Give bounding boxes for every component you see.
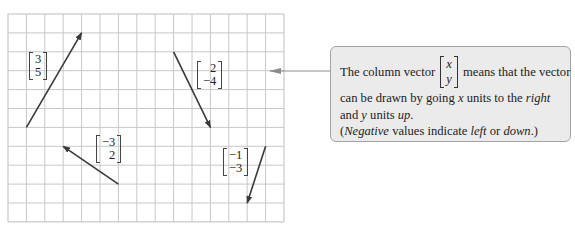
callout-var-y: y [361,108,367,122]
callout-emphasis-right: right [526,91,551,105]
vector-3-5-arrow [26,33,81,128]
vector-label-neg3-2: −3 2 [96,135,121,163]
vector-y-value: −4 [203,75,216,88]
right-bracket [244,148,248,176]
vector-arrows [26,33,265,203]
callout-text: units to the [467,91,523,105]
callout-line-1: The column vector x y means that the vec… [340,56,570,89]
vector-y-value: 5 [35,66,41,79]
callout-text: The column vector [340,65,435,79]
callout-line-4: (Negative values indicate left or down.) [340,123,538,140]
vector-y-value: −3 [229,162,242,175]
vector-label-3-5: 3 5 [29,52,47,80]
callout-line-3: and y units up. [340,107,414,124]
callout-emphasis-negative: Negative [344,124,389,138]
right-bracket [218,61,222,89]
callout-text: units [370,108,395,122]
callout-emphasis-left: left [470,124,486,138]
callout-text: . [410,108,413,122]
vector-neg1-neg3-arrow [247,146,265,203]
vector-label-neg1-neg3: −1 −3 [223,148,248,176]
right-bracket [454,56,458,88]
callout-text: .) [531,124,538,138]
grid-lines [8,14,284,222]
callout-text: and [340,108,358,122]
callout-text: can be drawn by going [340,91,455,105]
right-bracket [117,135,121,163]
callout-var-x: x [458,91,464,105]
explanation-callout: The column vector x y means that the vec… [330,46,571,142]
callout-line-2: can be drawn by going x units to the rig… [340,90,550,107]
callout-text: or [490,124,501,138]
callout-emphasis-down: down [503,124,530,138]
vector-y-value: 2 [109,149,115,162]
vector-label-2-neg4: 2 −4 [197,61,222,89]
column-vector-xy: x y [440,56,458,88]
callout-emphasis-up: up [398,108,411,122]
vector-y-symbol: y [446,72,452,87]
callout-text: values indicate [392,124,467,138]
right-bracket [43,52,47,80]
vector-x-symbol: x [446,57,452,72]
callout-text: means that the vector [463,65,570,79]
